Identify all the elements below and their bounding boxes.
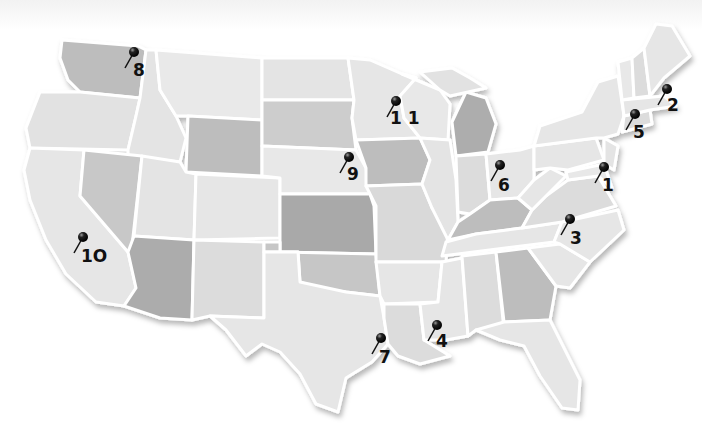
state-montana[interactable] <box>156 50 262 120</box>
state-arkansas[interactable] <box>376 262 442 304</box>
state-north-dakota[interactable] <box>262 58 354 100</box>
svg-text:1O: 1O <box>81 246 107 266</box>
svg-text:6: 6 <box>498 175 510 195</box>
svg-text:1 1: 1 1 <box>390 108 420 128</box>
pin-2[interactable]: 2 <box>658 84 679 115</box>
state-arizona[interactable] <box>124 236 194 320</box>
state-new-mexico[interactable] <box>192 240 264 320</box>
states-group <box>24 24 690 412</box>
svg-text:5: 5 <box>633 122 645 142</box>
state-florida[interactable] <box>476 320 580 410</box>
state-kansas[interactable] <box>280 194 376 254</box>
svg-text:8: 8 <box>133 60 145 80</box>
state-wyoming[interactable] <box>186 116 262 176</box>
svg-text:1: 1 <box>602 175 614 195</box>
svg-text:3: 3 <box>570 228 582 248</box>
state-oregon[interactable] <box>26 92 140 150</box>
svg-text:2: 2 <box>667 95 679 115</box>
state-iowa[interactable] <box>356 138 430 186</box>
svg-text:9: 9 <box>347 164 359 184</box>
state-new-york[interactable] <box>534 76 624 146</box>
svg-text:7: 7 <box>379 347 391 367</box>
state-michigan[interactable] <box>452 92 496 156</box>
state-colorado[interactable] <box>194 174 280 240</box>
svg-text:4: 4 <box>436 331 448 351</box>
us-map: 1 2 3 4 5 6 7 <box>0 0 702 434</box>
state-south-dakota[interactable] <box>262 100 356 150</box>
